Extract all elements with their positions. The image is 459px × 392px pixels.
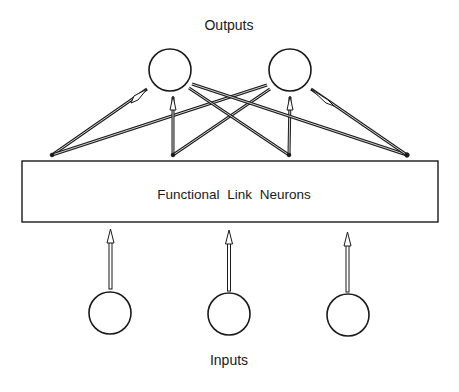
input-neuron-1 [89,292,131,334]
edge-52-to-output-1 [52,89,147,155]
arrow-input-1 [107,229,114,289]
functional-link-neurons-label: Functional Link Neurons [157,187,311,202]
edge-289-to-output-2 [287,96,293,155]
input-to-layer-arrows [107,229,351,292]
output-neuron-1 [149,49,191,91]
edge-407-to-output-2 [311,89,407,155]
arrow-input-2 [226,230,233,291]
inputs-label: Inputs [210,352,248,368]
outputs-label: Outputs [204,17,253,33]
output-neuron-2 [269,49,311,91]
edge-173-to-output-1 [170,96,176,155]
input-neuron-3 [327,294,369,336]
arrow-input-3 [344,232,351,292]
input-neuron-2 [208,293,250,335]
layer-to-output-edges [50,84,409,157]
